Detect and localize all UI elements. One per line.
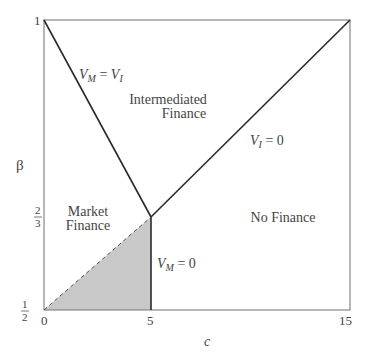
region-intermediated-line2: Finance xyxy=(162,106,206,121)
x-axis-label: c xyxy=(204,334,211,349)
label-vi-zero: VI = 0 xyxy=(250,133,284,150)
x-tick-5: 5 xyxy=(147,313,154,328)
region-market-line2: Finance xyxy=(66,218,110,233)
y-tick-2-3-num: 2 xyxy=(35,204,41,216)
curve-vm-eq-vi xyxy=(44,20,151,217)
y-axis-label: β xyxy=(16,157,24,173)
x-tick-0: 0 xyxy=(41,313,48,328)
plot-frame xyxy=(44,20,350,310)
label-vm-zero: VM = 0 xyxy=(157,256,196,273)
y-tick-2-3-den: 3 xyxy=(35,217,41,229)
x-tick-15: 15 xyxy=(339,313,352,328)
region-intermediated-line1: Intermediated xyxy=(129,92,207,107)
y-tick-1-2-den: 2 xyxy=(22,311,28,323)
y-tick-1-2-num: 1 xyxy=(22,298,28,310)
region-market-line1: Market xyxy=(68,204,109,219)
region-no-finance: No Finance xyxy=(251,210,316,225)
regime-diagram: 1 2 3 1 2 0 5 15 β c Intermediated Finan… xyxy=(0,0,387,356)
label-vm-eq-vi: VM = VI xyxy=(79,67,123,84)
y-tick-1: 1 xyxy=(34,13,41,28)
